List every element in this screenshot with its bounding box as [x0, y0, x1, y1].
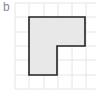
grid-diagram [0, 0, 97, 91]
l-shape-polygon [29, 17, 85, 75]
